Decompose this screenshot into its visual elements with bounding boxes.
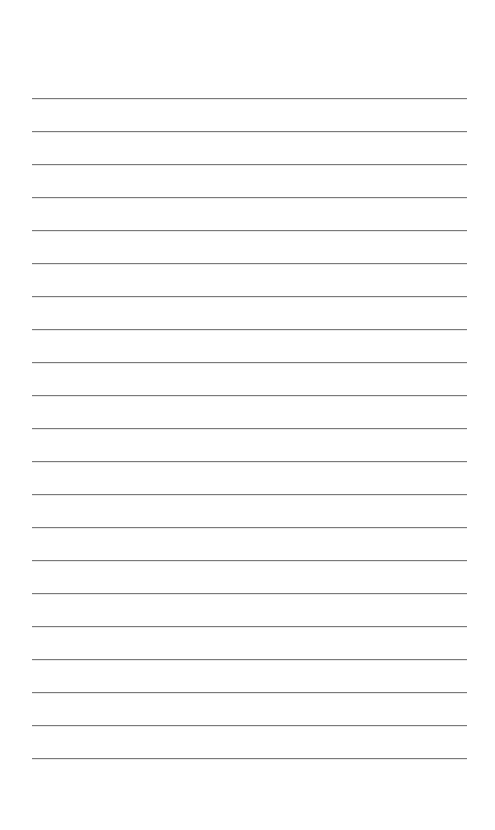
- ruled-line: [32, 164, 467, 165]
- ruled-line: [32, 560, 467, 561]
- ruled-line: [32, 428, 467, 429]
- lined-paper-page: [0, 0, 495, 830]
- ruled-line: [32, 758, 467, 759]
- ruled-line: [32, 362, 467, 363]
- ruled-line: [32, 263, 467, 264]
- ruled-line: [32, 725, 467, 726]
- ruled-line: [32, 659, 467, 660]
- ruled-line: [32, 395, 467, 396]
- ruled-line: [32, 329, 467, 330]
- ruled-line: [32, 626, 467, 627]
- ruled-line: [32, 692, 467, 693]
- ruled-line: [32, 230, 467, 231]
- ruled-line: [32, 593, 467, 594]
- ruled-line: [32, 98, 467, 99]
- ruled-line: [32, 197, 467, 198]
- ruled-line: [32, 461, 467, 462]
- ruled-line: [32, 131, 467, 132]
- ruled-line: [32, 527, 467, 528]
- ruled-line: [32, 494, 467, 495]
- ruled-line: [32, 296, 467, 297]
